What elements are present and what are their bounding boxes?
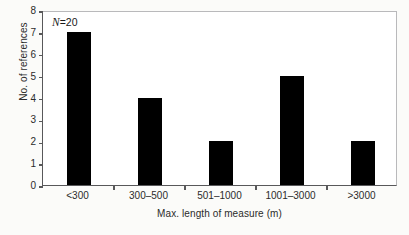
y-axis-tick-label: 4 xyxy=(20,94,36,104)
bar xyxy=(351,141,375,185)
sample-size-value: 20 xyxy=(66,16,78,28)
sample-size-symbol: N xyxy=(52,16,60,28)
x-axis-tick-label: 1001–3000 xyxy=(255,190,326,202)
y-axis-tick-mark xyxy=(39,33,43,34)
y-axis-tick-mark xyxy=(39,55,43,56)
y-axis-tick-labels: 012345678 xyxy=(20,11,36,186)
y-axis-tick-label: 0 xyxy=(20,181,36,191)
x-axis-title: Max. length of measure (m) xyxy=(42,208,397,219)
y-axis-tick-label: 3 xyxy=(20,115,36,125)
y-axis-tick-mark xyxy=(39,11,43,12)
bar xyxy=(209,141,233,185)
sample-size-annotation: N=20 xyxy=(52,16,78,28)
y-axis-tick-mark xyxy=(39,121,43,122)
y-axis-tick-mark xyxy=(39,77,43,78)
y-axis-tick-label: 1 xyxy=(20,159,36,169)
y-axis-tick-mark xyxy=(39,164,43,165)
plot-area: N=20 xyxy=(42,11,397,186)
x-axis-tick-labels: <300300–500501–10001001–3000>3000 xyxy=(42,190,397,204)
x-axis-tick-label: >3000 xyxy=(326,190,397,202)
y-axis-tick-mark xyxy=(39,143,43,144)
y-axis-tick-mark xyxy=(39,186,43,187)
x-axis-tick-label: 300–500 xyxy=(113,190,184,202)
y-axis-tick-mark xyxy=(39,99,43,100)
y-axis-tick-label: 6 xyxy=(20,50,36,60)
y-axis-tick-label: 5 xyxy=(20,72,36,82)
bar xyxy=(67,32,91,185)
y-axis-tick-label: 2 xyxy=(20,137,36,147)
bar xyxy=(138,98,162,186)
y-axis-tick-label: 8 xyxy=(20,6,36,16)
x-axis-tick-label: <300 xyxy=(42,190,113,202)
y-axis-tick-label: 7 xyxy=(20,28,36,38)
bar xyxy=(280,76,304,185)
x-axis-tick-label: 501–1000 xyxy=(184,190,255,202)
bar-chart-figure: No. of references 012345678 N=20 <300300… xyxy=(0,0,409,235)
